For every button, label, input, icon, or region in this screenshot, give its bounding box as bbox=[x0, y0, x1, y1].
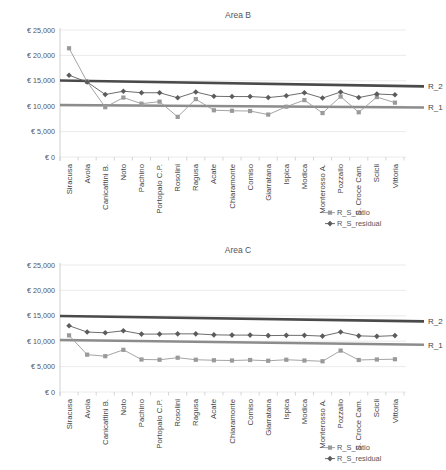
data-point bbox=[121, 95, 125, 99]
chart-svg-area-b: Area B€ 25,000€ 20,000€ 15,000€ 10,000€ … bbox=[0, 0, 446, 235]
x-axis-category-label: Comiso bbox=[246, 163, 255, 190]
data-point bbox=[248, 109, 252, 113]
chart-title: Area B bbox=[225, 10, 251, 20]
x-axis-category-label: Chiaramonte bbox=[228, 164, 237, 209]
data-point bbox=[302, 358, 306, 362]
data-point bbox=[193, 331, 199, 337]
y-axis-tick-label: € 10,000 bbox=[27, 102, 55, 111]
data-point bbox=[339, 348, 343, 352]
data-point bbox=[392, 92, 398, 98]
x-axis-category-label: Vittoria bbox=[391, 163, 400, 188]
reference-line-r_1 bbox=[60, 105, 424, 108]
data-point bbox=[247, 94, 253, 100]
data-point bbox=[392, 333, 398, 339]
data-point bbox=[194, 97, 198, 101]
chart-svg-area-c: Area C€ 25,000€ 20,000€ 15,000€ 10,000€ … bbox=[0, 235, 446, 470]
legend-label: R_S_ratio bbox=[337, 208, 370, 217]
reference-label-r_2: R_2 bbox=[428, 317, 443, 326]
x-axis-category-label: Noto bbox=[119, 398, 128, 415]
data-point bbox=[338, 329, 344, 335]
x-axis-category-label: Monterosso A. bbox=[318, 399, 327, 449]
data-point bbox=[212, 108, 216, 112]
y-axis-tick-label: € 25,000 bbox=[27, 26, 55, 35]
data-point bbox=[247, 332, 253, 338]
data-point bbox=[121, 88, 127, 94]
data-point bbox=[302, 98, 306, 102]
x-axis-category-label: Siracusa bbox=[65, 398, 74, 429]
legend-label: R_S_residual bbox=[337, 219, 382, 228]
data-point bbox=[374, 334, 380, 340]
data-point bbox=[230, 109, 234, 113]
x-axis-category-label: Rosolini bbox=[173, 164, 182, 192]
data-point bbox=[266, 112, 270, 116]
y-axis-tick-label: € 15,000 bbox=[27, 76, 55, 85]
x-axis-category-label: Ragusa bbox=[191, 163, 200, 191]
data-point bbox=[375, 357, 379, 361]
x-axis-category-label: Avola bbox=[83, 163, 92, 183]
reference-line-r_2 bbox=[60, 316, 424, 321]
y-axis-tick-label: € 15,000 bbox=[27, 311, 55, 320]
data-point bbox=[284, 105, 288, 109]
data-point bbox=[176, 115, 180, 119]
x-axis-category-label: Ragusa bbox=[191, 398, 200, 426]
x-axis-category-label: Scicli bbox=[372, 164, 381, 182]
series-R_S_residual bbox=[66, 323, 397, 339]
data-point bbox=[356, 95, 362, 101]
data-point bbox=[157, 90, 163, 96]
x-axis-category-label: Ispica bbox=[282, 163, 291, 184]
data-point bbox=[302, 90, 308, 96]
reference-label-r_2: R_2 bbox=[428, 82, 443, 91]
reference-line-r_2 bbox=[60, 81, 424, 87]
x-axis-category-label: Scicli bbox=[372, 399, 381, 417]
y-axis-tick-label: € 10,000 bbox=[27, 337, 55, 346]
data-point bbox=[102, 330, 108, 336]
data-point bbox=[230, 358, 234, 362]
y-axis-tick-label: € 5,000 bbox=[31, 362, 55, 371]
data-point bbox=[102, 92, 108, 98]
chart-title: Area C bbox=[225, 245, 251, 255]
data-point bbox=[229, 332, 235, 338]
data-point bbox=[103, 105, 107, 109]
data-point bbox=[85, 353, 89, 357]
x-axis-category-label: Comiso bbox=[246, 398, 255, 425]
reference-line-r_1 bbox=[60, 340, 424, 345]
x-axis-category-label: Monterosso A. bbox=[318, 164, 327, 214]
data-point bbox=[103, 354, 107, 358]
series-line bbox=[69, 335, 395, 361]
x-axis-category-label: Canicattini B. bbox=[101, 399, 110, 445]
data-point bbox=[266, 359, 270, 363]
data-point bbox=[175, 331, 181, 337]
x-axis-category-label: Acate bbox=[209, 164, 218, 184]
chart-page: Area B€ 25,000€ 20,000€ 15,000€ 10,000€ … bbox=[0, 0, 446, 470]
data-point bbox=[121, 328, 127, 334]
y-axis-tick-label: € 20,000 bbox=[27, 286, 55, 295]
x-axis-category-label: Pozzallo bbox=[336, 398, 345, 428]
data-point bbox=[121, 348, 125, 352]
data-point bbox=[66, 323, 72, 329]
data-point bbox=[338, 89, 344, 95]
legend-label: R_S_residual bbox=[337, 454, 382, 463]
y-axis-tick-label: € 20,000 bbox=[27, 51, 55, 60]
data-point bbox=[284, 333, 290, 339]
data-point bbox=[176, 356, 180, 360]
data-point bbox=[357, 110, 361, 114]
data-point bbox=[194, 358, 198, 362]
x-axis-category-label: Siracusa bbox=[65, 163, 74, 194]
x-axis-category-label: Vittoria bbox=[391, 398, 400, 423]
data-point bbox=[157, 358, 161, 362]
y-axis-tick-label: € 25,000 bbox=[27, 261, 55, 270]
data-point bbox=[139, 331, 145, 337]
x-axis-category-label: Pozzallo bbox=[336, 163, 345, 193]
data-point bbox=[320, 111, 324, 115]
data-point bbox=[357, 358, 361, 362]
data-point bbox=[139, 357, 143, 361]
data-point bbox=[67, 333, 71, 337]
x-axis-category-label: Pachino bbox=[137, 398, 146, 427]
chart-area-b: Area B€ 25,000€ 20,000€ 15,000€ 10,000€ … bbox=[0, 0, 446, 235]
data-point bbox=[339, 94, 343, 98]
data-point bbox=[393, 101, 397, 105]
data-point bbox=[139, 90, 145, 96]
chart-area-c: Area C€ 25,000€ 20,000€ 15,000€ 10,000€ … bbox=[0, 235, 446, 470]
data-point bbox=[157, 331, 163, 337]
x-axis-category-label: Rosolini bbox=[173, 399, 182, 427]
